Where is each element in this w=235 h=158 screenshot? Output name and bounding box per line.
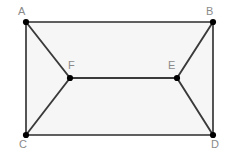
vertex-label-C: C	[19, 139, 27, 150]
vertex-label-D: D	[211, 139, 219, 150]
vertex-label-B: B	[206, 6, 213, 17]
vertex-dot-B	[210, 19, 216, 25]
vertex-label-E: E	[168, 60, 175, 71]
geometry-figure: A B C D F E	[0, 0, 235, 158]
vertex-dot-E	[174, 75, 180, 81]
vertex-label-F: F	[68, 60, 75, 71]
vertex-label-A: A	[18, 6, 25, 17]
figure-svg	[0, 0, 235, 158]
vertex-dot-A	[23, 19, 29, 25]
vertex-dot-F	[67, 75, 73, 81]
